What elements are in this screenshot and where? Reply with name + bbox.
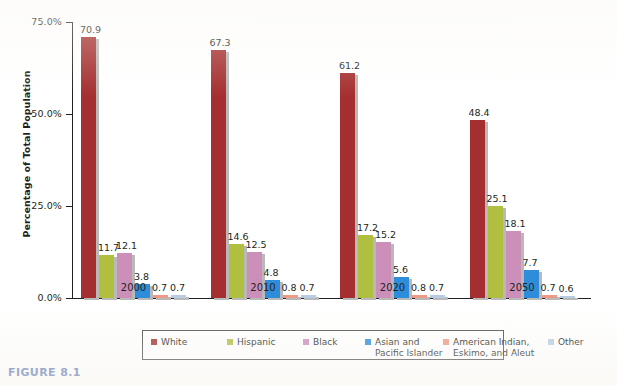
bar-group: 67.314.612.54.80.80.7 — [211, 22, 316, 298]
legend-item[interactable]: Other — [548, 337, 584, 348]
bar-group: 70.911.712.13.80.70.7 — [81, 22, 186, 298]
bar-fill — [340, 73, 355, 298]
bar-value-label: 18.1 — [505, 218, 526, 229]
bar-value-label: 70.9 — [80, 24, 101, 35]
y-tick-label: 50.0% — [14, 108, 62, 119]
bar[interactable] — [153, 295, 168, 298]
y-tick-label: 25.0% — [14, 200, 62, 211]
plot-area: 70.911.712.13.80.70.767.314.612.54.80.80… — [72, 22, 590, 298]
legend-item-label-line2: Pacific Islander — [375, 348, 442, 359]
x-axis-category-label: 2050 — [450, 282, 595, 293]
legend-item-label-line2: Eskimo, and Aleut — [453, 348, 534, 359]
legend-swatch-icon — [365, 339, 371, 345]
chart-legend: WhiteHispanicBlackAsian andPacific Islan… — [142, 330, 504, 360]
legend-item-label: American Indian,Eskimo, and Aleut — [453, 337, 534, 358]
bar[interactable] — [470, 120, 485, 298]
bar-value-label: 25.1 — [487, 193, 508, 204]
bar[interactable] — [301, 295, 316, 298]
legend-item-label: Asian andPacific Islander — [375, 337, 442, 358]
bar-value-label: 12.5 — [246, 239, 267, 250]
bar-group: 48.425.118.17.70.70.6 — [470, 22, 575, 298]
bar-fill — [412, 295, 427, 298]
x-axis-category-label: 2020 — [320, 282, 465, 293]
x-axis-category-label: 2010 — [191, 282, 336, 293]
x-axis-category-label: 2000 — [61, 282, 206, 293]
legend-item-label: Hispanic — [237, 337, 275, 348]
bar[interactable] — [171, 295, 186, 298]
bar-value-label: 67.3 — [210, 37, 231, 48]
bar-shadow — [563, 298, 578, 300]
y-tick-label-holder: 50.0% — [10, 108, 62, 120]
legend-item[interactable]: Black — [303, 337, 337, 348]
legend-swatch-icon — [227, 339, 233, 345]
bar-value-label: 61.2 — [339, 60, 360, 71]
legend-swatch-icon — [151, 339, 157, 345]
bar-fill — [470, 120, 485, 298]
bar-value-label: 4.8 — [264, 267, 279, 278]
legend-swatch-icon — [548, 339, 554, 345]
bar[interactable] — [211, 50, 226, 298]
bar-value-label: 15.2 — [375, 229, 396, 240]
legend-item[interactable]: Hispanic — [227, 337, 275, 348]
bar[interactable] — [560, 296, 575, 298]
bar[interactable] — [430, 295, 445, 298]
bar-fill — [211, 50, 226, 298]
bar-group: 61.217.215.25.60.80.7 — [340, 22, 445, 298]
bar[interactable] — [283, 295, 298, 298]
legend-item-label: White — [161, 337, 187, 348]
bar-fill — [542, 295, 557, 298]
bar[interactable] — [542, 295, 557, 298]
bar-value-label: 5.6 — [393, 264, 408, 275]
bar-value-label: 3.8 — [134, 271, 149, 282]
bar[interactable] — [340, 73, 355, 298]
legend-swatch-icon — [443, 339, 449, 345]
bar-fill — [283, 295, 298, 298]
bar-value-label: 48.4 — [469, 107, 490, 118]
y-tick-label: 75.0% — [14, 16, 62, 27]
figure-container: Percentage of Total Population 75.0%50.0… — [0, 0, 617, 386]
bar-fill — [430, 295, 445, 298]
legend-swatch-icon — [303, 339, 309, 345]
bar-fill — [171, 295, 186, 298]
legend-item[interactable]: American Indian,Eskimo, and Aleut — [443, 337, 534, 358]
bar-fill — [301, 295, 316, 298]
bar-fill — [81, 37, 96, 298]
legend-item-label: Other — [558, 337, 584, 348]
bar-fill — [153, 295, 168, 298]
legend-item-label: Black — [313, 337, 337, 348]
bar[interactable] — [412, 295, 427, 298]
bar[interactable] — [81, 37, 96, 298]
y-axis-title: Percentage of Total Population — [21, 78, 32, 238]
bar-fill — [560, 296, 575, 298]
y-tick-label: 0.0% — [14, 292, 62, 303]
y-tick-mark — [66, 298, 72, 299]
bar-value-label: 12.1 — [116, 240, 137, 251]
legend-item[interactable]: White — [151, 337, 187, 348]
legend-item[interactable]: Asian andPacific Islander — [365, 337, 442, 358]
bar-value-label: 7.7 — [523, 257, 538, 268]
y-tick-label-holder: 25.0% — [10, 200, 62, 212]
y-tick-label-holder: 75.0% — [10, 16, 62, 28]
figure-caption: FIGURE 8.1 — [8, 366, 81, 379]
y-tick-label-holder: 0.0% — [10, 292, 62, 304]
